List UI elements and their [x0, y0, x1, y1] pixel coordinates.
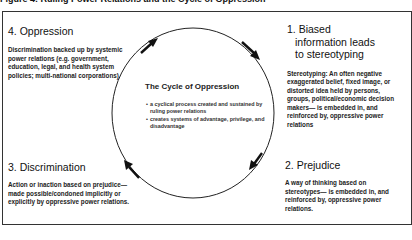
- stage-title: 4. Oppression: [8, 25, 123, 37]
- stage-description: Action or inaction based on prejudice— m…: [8, 181, 133, 207]
- cycle-title: The Cycle of Oppression: [145, 82, 265, 91]
- cycle-bullet: •creates systems of advantage, privilege…: [145, 116, 265, 131]
- cycle-bullets: •a cyclical process created and sustaine…: [145, 101, 265, 130]
- stage-prejudice: 2. Prejudice A way of thinking based on …: [285, 159, 403, 213]
- stage-description: Discrimination backed up by systemic pow…: [8, 46, 123, 80]
- arrow-icon: [242, 42, 260, 60]
- cycle-center: The Cycle of Oppression •a cyclical proc…: [145, 82, 265, 130]
- stage-title: 2. Prejudice: [285, 159, 403, 171]
- stage-oppression: 4. Oppression Discrimination backed up b…: [8, 25, 123, 80]
- stage-description: Stereotyping: An often negative exaggera…: [287, 70, 403, 130]
- cycle-bullet: •a cyclical process created and sustaine…: [145, 101, 265, 116]
- stage-biased-information: 1. Biased information leads to stereotyp…: [287, 23, 403, 130]
- stage-description: A way of thinking based on stereotypes— …: [285, 179, 403, 213]
- stage-title: 1. Biased information leads to stereotyp…: [287, 23, 403, 61]
- stage-discrimination: 3. Discrimination Action or inaction bas…: [8, 161, 133, 207]
- stage-title: 3. Discrimination: [8, 161, 133, 173]
